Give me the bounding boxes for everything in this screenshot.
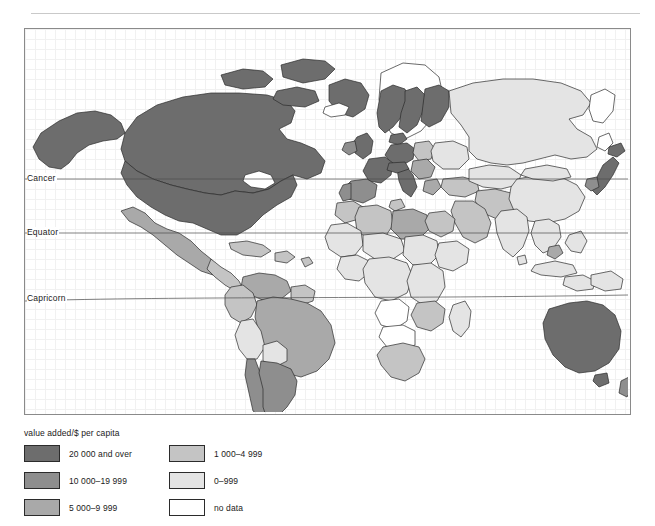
map-legend: value added/$ per capita 20 000 and over… (24, 428, 444, 516)
legend-column-left: 20 000 and over 10 000–19 999 5 000–9 99… (24, 445, 169, 516)
region-central-africa[interactable] (363, 257, 413, 301)
region-indonesia-1[interactable] (531, 261, 577, 277)
region-philippines[interactable] (565, 231, 587, 253)
region-ukraine-belarus[interactable] (431, 141, 469, 169)
region-russia[interactable] (449, 79, 597, 165)
region-canada-arctic-1[interactable] (221, 69, 273, 89)
legend-item-no-data[interactable]: no data (169, 499, 262, 516)
legend-swatch-c3 (24, 499, 60, 516)
region-caribbean-cuba[interactable] (229, 241, 271, 257)
region-tasmania[interactable] (593, 373, 609, 387)
region-kamchatka[interactable] (589, 89, 615, 123)
region-south-africa[interactable] (377, 343, 425, 381)
map-frame: .ln{stroke:#2b2b2b;stroke-width:.7;strok… (24, 28, 631, 415)
region-czech-balkans[interactable] (411, 159, 435, 179)
legend-label-c3: 5 000–9 999 (69, 503, 117, 513)
legend-label-c2: 1 000–4 999 (214, 449, 262, 459)
region-caribbean-small[interactable] (301, 257, 313, 267)
label-capricorn: Capricorn (27, 293, 67, 303)
region-sudan[interactable] (403, 235, 439, 265)
region-iceland[interactable] (323, 103, 349, 117)
tropic-of-capricorn-line (25, 295, 628, 301)
region-libya[interactable] (391, 209, 429, 239)
header-rule (31, 13, 640, 14)
region-japan[interactable] (591, 157, 619, 195)
legend-swatch-c4 (24, 472, 60, 489)
region-malaysia[interactable] (547, 245, 563, 259)
region-alaska[interactable] (33, 111, 125, 169)
legend-swatch-c5 (24, 445, 60, 462)
legend-label-c5: 20 000 and over (69, 449, 132, 459)
region-tunisia[interactable] (389, 199, 405, 211)
region-horn-africa[interactable] (435, 241, 469, 271)
legend-item-10000-19999[interactable]: 10 000–19 999 (24, 472, 169, 489)
region-greece[interactable] (423, 179, 441, 195)
region-portugal[interactable] (339, 183, 351, 201)
region-madagascar[interactable] (449, 301, 471, 337)
legend-title: value added/$ per capita (24, 428, 444, 438)
label-equator: Equator (27, 227, 59, 237)
region-new-zealand[interactable] (619, 377, 628, 397)
world-map-svg[interactable]: .ln{stroke:#2b2b2b;stroke-width:.7;strok… (25, 29, 628, 412)
label-cancer: Cancer (27, 173, 57, 183)
legend-label-c0: no data (214, 503, 243, 513)
region-east-africa[interactable] (407, 263, 445, 305)
region-angola[interactable] (375, 299, 409, 329)
legend-item-0-999[interactable]: 0–999 (169, 472, 262, 489)
legend-item-5000-9999[interactable]: 5 000–9 999 (24, 499, 169, 516)
legend-swatch-c2 (169, 445, 205, 462)
legend-label-c1: 0–999 (214, 476, 238, 486)
legend-item-20000-and-over[interactable]: 20 000 and over (24, 445, 169, 462)
legend-swatch-c1 (169, 472, 205, 489)
region-finland[interactable] (421, 85, 449, 127)
legend-column-right: 1 000–4 999 0–999 no data (169, 445, 262, 516)
region-australia[interactable] (543, 301, 621, 373)
region-canada-arctic-2[interactable] (281, 59, 335, 83)
region-indonesia-2[interactable] (563, 275, 595, 291)
region-new-guinea[interactable] (591, 271, 623, 291)
legend-label-c4: 10 000–19 999 (69, 476, 127, 486)
region-caribbean-hisp[interactable] (275, 251, 295, 263)
region-sri-lanka[interactable] (517, 255, 527, 265)
legend-swatch-c0 (169, 499, 205, 516)
legend-item-1000-4999[interactable]: 1 000–4 999 (169, 445, 262, 462)
region-tanzania-zambia[interactable] (411, 301, 445, 331)
